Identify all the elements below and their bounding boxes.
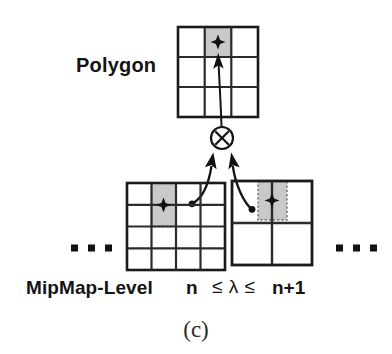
mipmap-level-n-value: n [186, 278, 198, 297]
mipmap-level-n-plus-1-value: n+1 [272, 278, 305, 297]
mipmap-trilinear-filtering-diagram: Polygon MipMap-Level n ≤ λ ≤ n+1 (c) [0, 0, 392, 354]
diagram-canvas [0, 0, 392, 354]
multiply-operator [211, 127, 233, 149]
polygon-label: Polygon [76, 55, 156, 75]
mipmap-level-n-plus-1-grid [232, 181, 312, 265]
ellipsis-right [336, 245, 377, 252]
mipmap-level-label: MipMap-Level [26, 278, 153, 297]
level-n-plus-1-sample-dot [249, 206, 256, 213]
subfigure-caption: (c) [0, 318, 392, 341]
ellipsis-left [71, 245, 112, 252]
arrow-to-polygon [213, 53, 224, 126]
mipmap-level-n-grid [127, 183, 225, 270]
lambda-range-expression: ≤ λ ≤ [212, 277, 255, 296]
arrow-from-level-n [189, 153, 217, 208]
